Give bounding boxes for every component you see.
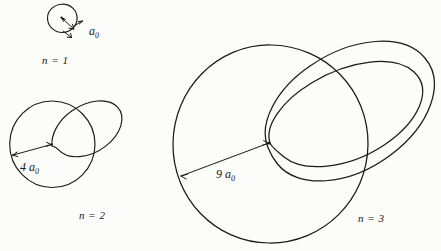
shell-label-n1: n = 1 xyxy=(42,54,68,66)
nucleus-dot-n2 xyxy=(50,143,53,146)
shell-label-n2: n = 2 xyxy=(79,209,105,221)
orbit-diagram-canvas: a0 n = 1 4 a0 n = 2 xyxy=(0,0,441,251)
radius-label-n3: 9 a0 xyxy=(216,167,235,183)
nucleus-dot-n1 xyxy=(60,17,62,19)
shell-label-n3: n = 3 xyxy=(358,212,384,224)
bohr-orbit-figure: a0 n = 1 4 a0 n = 2 xyxy=(0,0,441,251)
shell-group-n2: 4 a0 n = 2 xyxy=(10,101,122,221)
orbit-ellipse-wide-n3 xyxy=(265,41,434,181)
radius-arrowhead-outer-n3 xyxy=(181,174,188,179)
radius-leader-n1 xyxy=(62,18,74,29)
shell-group-n1: a0 n = 1 xyxy=(42,4,99,66)
radius-label-n1: a0 xyxy=(89,24,99,40)
radius-leader-n2 xyxy=(13,145,52,156)
orbit-ellipse-n2 xyxy=(52,101,122,157)
radius-label-n2: 4 a0 xyxy=(20,160,39,176)
radius-arrowhead-inner-n2 xyxy=(46,142,51,146)
nucleus-dot-n3 xyxy=(268,142,271,145)
shell-group-n3: 9 a0 n = 3 xyxy=(173,41,434,243)
orbit-ellipse-narrow-n3 xyxy=(269,62,423,167)
